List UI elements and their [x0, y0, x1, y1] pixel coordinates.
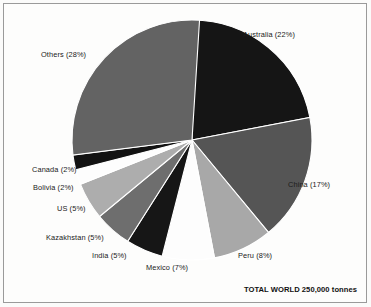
pie-label-china: China (17%) [288, 181, 330, 188]
pie-chart-graphic [0, 0, 371, 307]
pie-slice-others [72, 20, 200, 155]
pie-slice-group [72, 20, 312, 260]
pie-label-canada: Canada (2%) [32, 166, 77, 173]
total-world-annotation: TOTAL WORLD 250,000 tonnes [244, 285, 357, 294]
pie-label-mexico: Mexico (7%) [146, 264, 188, 271]
pie-label-us: US (5%) [57, 205, 86, 212]
pie-chart-figure: Australia (22%) China (17%) Peru (8%) Me… [0, 0, 371, 307]
pie-label-peru: Peru (8%) [238, 252, 272, 259]
pie-label-bolivia: Bolivia (2%) [33, 184, 74, 191]
pie-label-australia: Australia (22%) [243, 31, 295, 38]
pie-label-others: Others (28%) [41, 51, 86, 58]
pie-label-kazakhstan: Kazakhstan (5%) [46, 234, 104, 241]
pie-label-india: India (5%) [92, 252, 127, 259]
